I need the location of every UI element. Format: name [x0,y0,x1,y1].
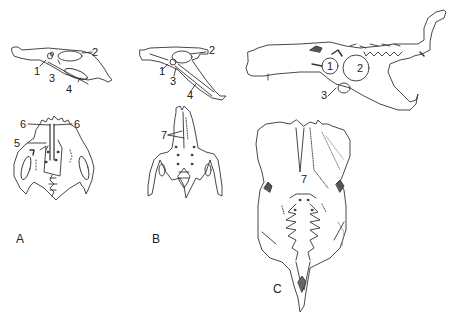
label-a-lateral-4: 4 [66,84,72,95]
label-a-lateral-2: 2 [92,47,98,58]
label-b-lateral-1: 1 [159,66,165,77]
panel-label-b: B [152,233,160,245]
label-a-ventral-5: 5 [14,138,20,149]
label-a-lateral-3: 3 [49,73,55,84]
label-b-ventral-7: 7 [161,130,167,141]
label-c-ventral-7: 7 [301,174,307,185]
label-c-lateral-1: 1 [327,61,333,72]
label-c-lateral-3: 3 [321,90,327,101]
label-c-lateral-2: 2 [357,63,363,74]
label-a-ventral-6-left: 6 [20,119,26,130]
skull-b-ventral [148,106,222,198]
skull-c-ventral [256,120,350,312]
label-b-lateral-3: 3 [170,76,176,87]
panel-label-a: A [16,233,24,245]
label-a-ventral-6-right: 6 [74,119,80,130]
label-b-lateral-4: 4 [187,90,193,101]
label-b-lateral-2: 2 [209,45,215,56]
label-a-lateral-1: 1 [34,66,40,77]
skull-c-lateral [246,10,446,110]
diagram-canvas [0,0,452,316]
panel-label-c: C [273,283,282,295]
